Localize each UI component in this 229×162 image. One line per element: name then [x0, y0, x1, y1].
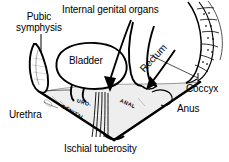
label-pubic-symphysis-line2: symphysis — [6, 23, 72, 34]
label-coccyx: Coccyx — [186, 84, 218, 95]
label-ischial-tuberosity: Ischial tuberosity — [64, 144, 137, 155]
label-urethra: Urethra — [9, 110, 42, 121]
pubic-symphysis-shape — [30, 44, 48, 93]
sacrum-coccyx-shape — [186, 1, 222, 83]
label-bladder: Bladder — [69, 56, 103, 67]
diagram-canvas: Pubic symphysis Internal genital organs … — [0, 0, 229, 162]
label-anus: Anus — [177, 104, 199, 115]
label-internal-genital-organs: Internal genital organs — [62, 5, 159, 16]
